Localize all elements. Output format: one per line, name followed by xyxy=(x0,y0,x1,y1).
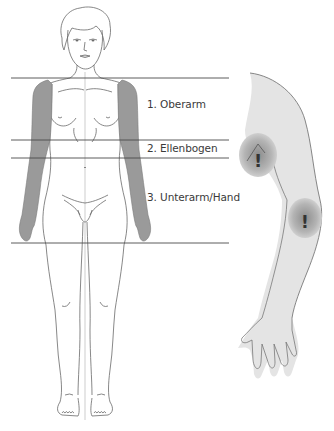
body-illustration: ! ! xyxy=(0,0,334,431)
arm-zone-diagram: ! ! 1. Oberarm 2. Ellenbogen 3. Unterarm… xyxy=(0,0,334,431)
zone-label-upper-arm: 1. Oberarm xyxy=(147,98,206,110)
front-body-figure xyxy=(43,7,127,420)
exclamation-icon: ! xyxy=(254,150,262,171)
side-arm-illustration: ! ! xyxy=(238,73,322,379)
right-arm-shaded xyxy=(118,80,151,241)
exclamation-icon: ! xyxy=(301,212,309,232)
zone-label-elbow: 2. Ellenbogen xyxy=(147,142,218,154)
zone-label-forearm-hand: 3. Unterarm/Hand xyxy=(147,191,240,203)
forearm-warning-marker: ! xyxy=(288,198,322,238)
elbow-warning-marker: ! xyxy=(239,133,277,177)
left-arm-shaded xyxy=(19,80,52,241)
